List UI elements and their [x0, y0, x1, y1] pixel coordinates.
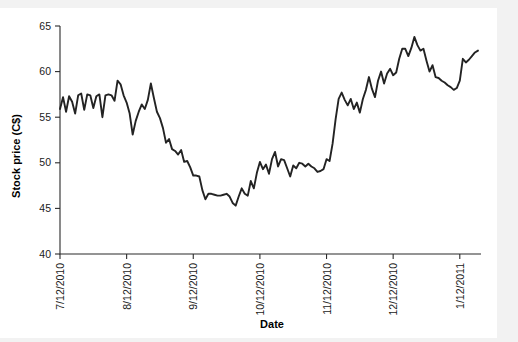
x-tick-label: 7/12/2010 [54, 263, 66, 310]
plot-background [0, 8, 497, 338]
y-tick-label: 40 [39, 248, 51, 260]
y-tick-label: 65 [39, 20, 51, 32]
x-tick-label: 12/12/2010 [387, 263, 399, 316]
y-tick-label: 55 [39, 111, 51, 123]
chart-figure: 404550556065 7/12/20108/12/20109/12/2010… [0, 8, 497, 338]
y-axis-title: Stock price (C$) [10, 114, 22, 198]
x-tick-label: 8/12/2010 [121, 263, 133, 310]
stock-price-line-chart: 404550556065 7/12/20108/12/20109/12/2010… [0, 8, 497, 338]
screenshot-page: 404550556065 7/12/20108/12/20109/12/2010… [0, 0, 518, 342]
x-tick-label: 10/12/2010 [254, 263, 266, 316]
x-tick-label: 1/12/2011 [454, 263, 466, 309]
y-tick-label: 60 [39, 65, 51, 77]
y-tick-label: 50 [39, 156, 51, 168]
x-tick-label: 11/12/2010 [321, 263, 333, 315]
x-axis-title: Date [260, 318, 284, 330]
x-tick-label: 9/12/2010 [187, 263, 199, 310]
y-tick-label: 45 [39, 202, 51, 214]
